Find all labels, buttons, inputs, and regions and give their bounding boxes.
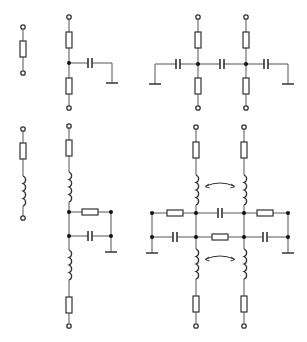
terminal-icon [21,71,25,75]
junction-dot [286,235,290,239]
resistor-icon [66,140,72,156]
resistor-icon [193,142,199,158]
resistor-icon [241,142,247,158]
inductor-icon [244,249,247,279]
inductor-icon [69,172,72,202]
junction-dot [244,62,248,66]
circuit-b [66,15,118,110]
terminal-icon [242,324,246,328]
junction-dot [67,234,71,238]
terminal-icon [67,324,71,328]
terminal-icon [242,125,246,129]
resistor-icon [66,297,72,313]
inductor-icon [244,175,247,205]
resistor-icon [243,78,249,94]
circuit-d [20,127,26,220]
resistor-icon [195,32,201,48]
terminal-icon [194,125,198,129]
resistor-icon [195,78,201,94]
inductor-icon [196,175,199,205]
terminal-icon [194,324,198,328]
terminal-icon [196,15,200,19]
terminal-icon [196,106,200,110]
inductor-icon [23,176,26,206]
resistor-icon [20,143,26,159]
junction-dot [67,61,71,65]
junction-dot [67,210,71,214]
circuit-a [20,25,26,75]
terminal-icon [244,15,248,19]
terminal-icon [67,124,71,128]
junction-dot [150,211,154,215]
resistor-icon [193,296,199,312]
resistor-icon [167,210,183,216]
circuit-c [149,15,294,110]
junction-dot [196,62,200,66]
junction-dot [109,210,113,214]
terminal-icon [67,15,71,19]
junction-dot [150,235,154,239]
terminal-icon [244,106,248,110]
terminal-icon [21,216,25,220]
resistor-icon [257,210,273,216]
resistor-icon [243,32,249,48]
junction-dot [286,211,290,215]
resistor-icon [66,78,72,94]
junction-dot [242,235,246,239]
circuit-e [66,124,117,328]
terminal-icon [21,127,25,131]
terminal-icon [67,106,71,110]
inductor-icon [69,250,72,280]
resistor-icon [212,234,228,240]
resistor-icon [20,41,26,57]
coupling-arrow-icon [206,256,234,259]
resistor-icon [241,296,247,312]
junction-dot [194,211,198,215]
coupling-arrow-icon [206,183,234,186]
junction-dot [194,235,198,239]
terminal-icon [21,25,25,29]
junction-dot [109,234,113,238]
inductor-icon [196,249,199,279]
resistor-icon [66,32,72,48]
junction-dot [242,211,246,215]
resistor-icon [82,209,98,215]
circuit-f [146,125,294,328]
circuit-diagram [0,0,307,342]
